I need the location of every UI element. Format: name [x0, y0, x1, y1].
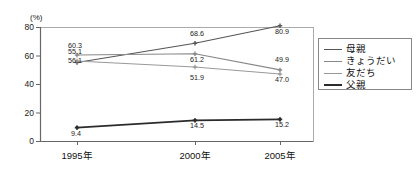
y-axis-unit-label: (%)	[30, 13, 42, 22]
y-tick-label-0: 0	[12, 136, 34, 146]
data-label-1-0: 60.3	[60, 41, 90, 50]
data-label-3-2: 15.2	[267, 120, 297, 129]
legend-swatch-line-icon-1	[324, 61, 342, 62]
legend-item-label-1: きょうだい	[346, 56, 396, 66]
legend-item-1: きょうだい	[324, 55, 396, 67]
series-line-0	[77, 26, 280, 63]
legend-swatch-line-icon-2	[324, 73, 342, 74]
x-tick-label-0: 1995年	[42, 148, 112, 162]
legend-swatch-line-icon-0	[324, 49, 342, 50]
y-tick-label-40: 40	[12, 79, 34, 89]
legend-swatch-line-icon-3	[324, 84, 342, 86]
legend-item-2: 友だち	[324, 67, 376, 79]
legend-item-0: 母親	[324, 43, 366, 55]
y-tick-label-20: 20	[12, 108, 34, 118]
x-tick-label-2: 2005年	[245, 148, 315, 162]
data-label-2-1: 51.9	[182, 73, 212, 82]
data-label-2-0: 56.1	[60, 56, 90, 65]
chart-legend: 母親きょうだい友だち父親	[318, 38, 412, 90]
data-label-1-2: 49.9	[267, 55, 297, 64]
legend-item-label-3: 父親	[346, 80, 366, 90]
series-line-1	[77, 54, 280, 70]
y-tick-label-60: 60	[12, 51, 34, 61]
data-label-2-2: 47.0	[267, 75, 297, 84]
x-tick-label-1: 2000年	[160, 148, 230, 162]
series-line-2	[77, 61, 280, 74]
data-label-3-0: 9.4	[61, 129, 91, 138]
legend-item-label-2: 友だち	[346, 68, 376, 78]
data-label-3-1: 14.5	[182, 121, 212, 130]
legend-item-3: 父親	[324, 79, 366, 91]
legend-item-label-0: 母親	[346, 44, 366, 54]
data-label-0-2: 80.9	[267, 27, 297, 36]
y-tick-label-80: 80	[12, 22, 34, 32]
data-label-1-1: 61.2	[182, 55, 212, 64]
data-label-0-1: 68.6	[182, 29, 212, 38]
line-chart: (%) 020406080 1995年2000年2005年 55.168.680…	[0, 0, 420, 169]
series-line-3	[77, 119, 280, 127]
